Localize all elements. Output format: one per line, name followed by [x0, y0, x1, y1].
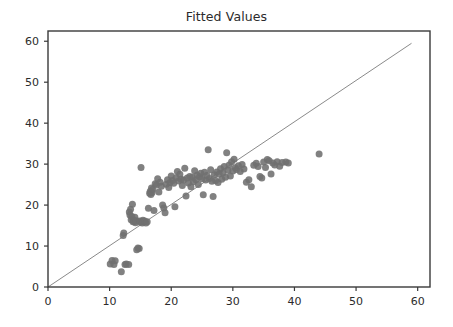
scatter-point: [255, 163, 262, 170]
x-axis-tick-label: 50: [349, 295, 363, 308]
scatter-point: [205, 146, 212, 153]
y-axis-tick-label: 50: [25, 76, 39, 89]
scatter-point: [112, 257, 119, 264]
y-axis-tick-labels-group: 0102030405060: [25, 35, 39, 294]
y-axis-tick-label: 60: [25, 35, 39, 48]
scatter-point: [162, 209, 169, 216]
scatter-point: [150, 207, 157, 214]
scatter-point: [223, 149, 230, 156]
scatter-point: [316, 150, 323, 157]
scatter-point: [144, 218, 151, 225]
scatter-plot-canvas: 0102030405060 0102030405060: [0, 0, 453, 327]
fitted-values-chart-figure: Fitted Values 0102030405060 010203040506…: [0, 0, 453, 327]
scatter-point: [258, 175, 265, 182]
x-axis-tick-label: 40: [287, 295, 301, 308]
scatter-point: [248, 183, 255, 190]
scatter-point: [231, 156, 238, 163]
scatter-point: [200, 191, 207, 198]
scatter-point: [120, 229, 127, 236]
x-axis-tick-label: 0: [45, 295, 52, 308]
y-axis-tick-label: 20: [25, 199, 39, 212]
scatter-point: [171, 203, 178, 210]
scatter-point: [138, 164, 145, 171]
scatter-point: [210, 193, 217, 200]
x-axis-tick-label: 10: [103, 295, 117, 308]
scatter-point: [245, 176, 252, 183]
y-axis-tick-label: 0: [32, 281, 39, 294]
x-axis-tick-label: 30: [226, 295, 240, 308]
scatter-point: [125, 261, 132, 268]
scatter-point: [181, 165, 188, 172]
x-axis-tick-label: 20: [164, 295, 178, 308]
scatter-point: [129, 201, 136, 208]
scatter-point: [195, 181, 202, 188]
y-axis-tick-label: 40: [25, 117, 39, 130]
x-axis-tick-labels-group: 0102030405060: [45, 295, 425, 308]
scatter-point: [268, 170, 275, 177]
x-axis-tick-label: 60: [411, 295, 425, 308]
scatter-point: [240, 166, 247, 173]
scatter-point: [285, 159, 292, 166]
scatter-point: [118, 268, 125, 275]
y-axis-tick-label: 30: [25, 158, 39, 171]
scatter-point: [262, 164, 269, 171]
y-axis-tick-label: 10: [25, 240, 39, 253]
scatter-point: [136, 245, 143, 252]
scatter-point: [183, 193, 190, 200]
